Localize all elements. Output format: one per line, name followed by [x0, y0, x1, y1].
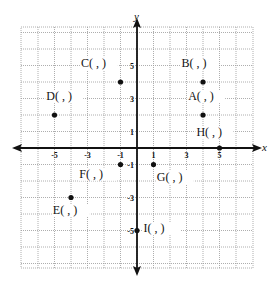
x-tick-label: -5 [51, 151, 58, 160]
point-label-c: C( , ) [81, 56, 106, 70]
point-e [68, 195, 73, 200]
point-label-i: I( , ) [144, 221, 165, 235]
point-label-h: H( , ) [196, 125, 222, 139]
point-label-f: F( , ) [79, 167, 103, 181]
y-tick-label: 1 [130, 128, 134, 137]
x-tick-label: -3 [84, 151, 91, 160]
y-tick-label: -1 [127, 161, 134, 170]
point-label-e: E( , ) [53, 203, 77, 217]
point-label-g: G( , ) [157, 170, 183, 184]
y-tick-label: 5 [130, 62, 134, 71]
x-tick-label: 5 [218, 151, 222, 160]
point-c [118, 79, 123, 84]
point-a [200, 112, 205, 117]
x-tick-label: 3 [185, 151, 189, 160]
x-tick-label: -1 [117, 151, 124, 160]
point-d [52, 112, 57, 117]
point-label-a: A( , ) [188, 89, 214, 103]
point-b [200, 79, 205, 84]
point-g [151, 162, 156, 167]
y-axis-label: y [133, 10, 139, 22]
x-tick-label: 1 [152, 151, 156, 160]
axes: xy [12, 10, 267, 276]
point-labels: A( , )B( , )C( , )D( , )E( , )F( , )G( ,… [46, 56, 222, 235]
point-i [134, 228, 139, 233]
point-label-d: D( , ) [46, 89, 72, 103]
y-tick-label: -5 [127, 227, 134, 236]
y-tick-label: 3 [130, 95, 134, 104]
coordinate-plane: xy -5-3-1135531-1-3-5 A( , )B( , )C( , )… [0, 0, 276, 283]
point-f [118, 162, 123, 167]
y-tick-label: -3 [127, 194, 134, 203]
point-h [217, 145, 222, 150]
point-label-b: B( , ) [182, 56, 207, 70]
x-axis-label: x [261, 141, 267, 153]
